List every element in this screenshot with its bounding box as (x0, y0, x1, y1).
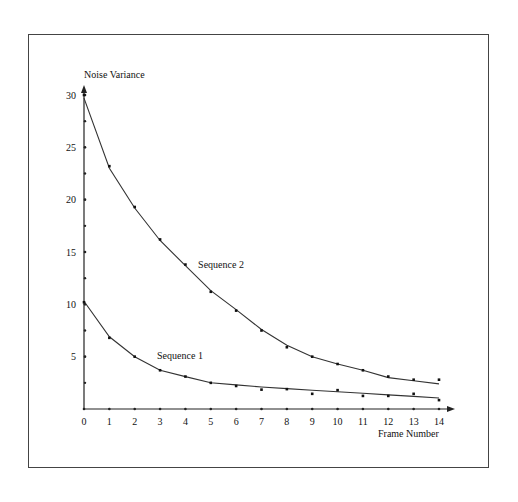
x-tick-label: 10 (333, 416, 343, 427)
data-point-marker (362, 395, 365, 398)
data-point-marker (235, 309, 238, 312)
y-tick-label: 10 (66, 299, 76, 310)
data-point-marker (133, 355, 136, 358)
x-axis-label: Frame Number (378, 428, 439, 439)
series-layer: Sequence 1Sequence 2 (83, 94, 441, 402)
data-point-marker (286, 346, 289, 349)
series-fit-line (84, 98, 439, 384)
y-minor-tick-mark (84, 277, 86, 279)
x-tick-mark (311, 408, 314, 411)
y-tick-mark (84, 251, 87, 254)
x-tick-label: 12 (383, 416, 393, 427)
series-label: Sequence 2 (198, 259, 244, 270)
data-point-marker (260, 388, 263, 391)
series-label: Sequence 1 (157, 350, 203, 361)
data-point-marker (184, 263, 187, 266)
x-tick-mark (336, 408, 339, 411)
x-tick-label: 14 (434, 416, 444, 427)
data-point-marker (286, 388, 289, 391)
data-point-marker (159, 238, 162, 241)
data-point-marker (83, 94, 86, 97)
y-minor-tick-mark (84, 329, 86, 331)
x-tick-mark (362, 408, 365, 411)
data-point-marker (235, 385, 238, 388)
x-tick-mark (438, 408, 441, 411)
x-tick-label: 2 (132, 416, 137, 427)
data-point-marker (438, 399, 441, 402)
series-2: Sequence 2 (83, 94, 441, 384)
y-tick-label: 15 (66, 247, 76, 258)
data-point-marker (209, 382, 212, 385)
y-tick-mark (84, 146, 87, 149)
x-tick-label: 1 (107, 416, 112, 427)
y-minor-tick-mark (84, 382, 86, 384)
y-minor-tick-mark (84, 172, 86, 174)
data-point-marker (159, 369, 162, 372)
x-tick-mark (83, 408, 86, 411)
x-tick-label: 9 (310, 416, 315, 427)
series-1: Sequence 1 (83, 301, 441, 401)
x-tick-mark (159, 408, 162, 411)
data-point-marker (209, 290, 212, 293)
x-tick-label: 7 (259, 416, 264, 427)
data-point-marker (133, 206, 136, 209)
y-tick-label: 30 (66, 90, 76, 101)
x-tick-mark (387, 408, 390, 411)
y-tick-label: 25 (66, 142, 76, 153)
data-point-marker (362, 369, 365, 372)
data-point-marker (311, 393, 314, 396)
data-point-marker (184, 375, 187, 378)
x-tick-mark (133, 408, 136, 411)
data-point-marker (311, 355, 314, 358)
x-tick-label: 0 (82, 416, 87, 427)
y-axis-arrow-icon (81, 85, 87, 93)
x-tick-mark (260, 408, 263, 411)
data-point-marker (83, 301, 86, 304)
x-tick-label: 5 (208, 416, 213, 427)
y-minor-tick-mark (84, 225, 86, 227)
data-point-marker (336, 363, 339, 366)
y-tick-label: 20 (66, 194, 76, 205)
x-axis-arrow-icon (447, 406, 455, 412)
series-fit-line (84, 301, 439, 398)
data-point-marker (108, 337, 111, 340)
x-tick-mark (235, 408, 238, 411)
axes: 0123456789101112131451015202530 (66, 85, 455, 427)
y-axis-label: Noise Variance (84, 69, 145, 80)
x-tick-label: 8 (284, 416, 289, 427)
data-point-marker (336, 389, 339, 392)
data-point-marker (412, 378, 415, 381)
x-tick-mark (209, 408, 212, 411)
data-point-marker (260, 329, 263, 332)
x-tick-mark (286, 408, 289, 411)
data-point-marker (412, 393, 415, 396)
y-minor-tick-mark (84, 120, 86, 122)
x-tick-label: 11 (358, 416, 368, 427)
y-tick-mark (84, 198, 87, 201)
x-tick-mark (108, 408, 111, 411)
data-point-marker (387, 375, 390, 378)
x-tick-label: 3 (158, 416, 163, 427)
data-point-marker (387, 395, 390, 398)
x-tick-mark (412, 408, 415, 411)
data-point-marker (108, 165, 111, 168)
x-tick-label: 4 (183, 416, 188, 427)
noise-variance-chart: 0123456789101112131451015202530 Sequence… (0, 0, 518, 502)
y-tick-label: 5 (71, 351, 76, 362)
x-tick-label: 13 (409, 416, 419, 427)
x-tick-label: 6 (234, 416, 239, 427)
x-tick-mark (184, 408, 187, 411)
y-tick-mark (84, 355, 87, 358)
data-point-marker (438, 378, 441, 381)
